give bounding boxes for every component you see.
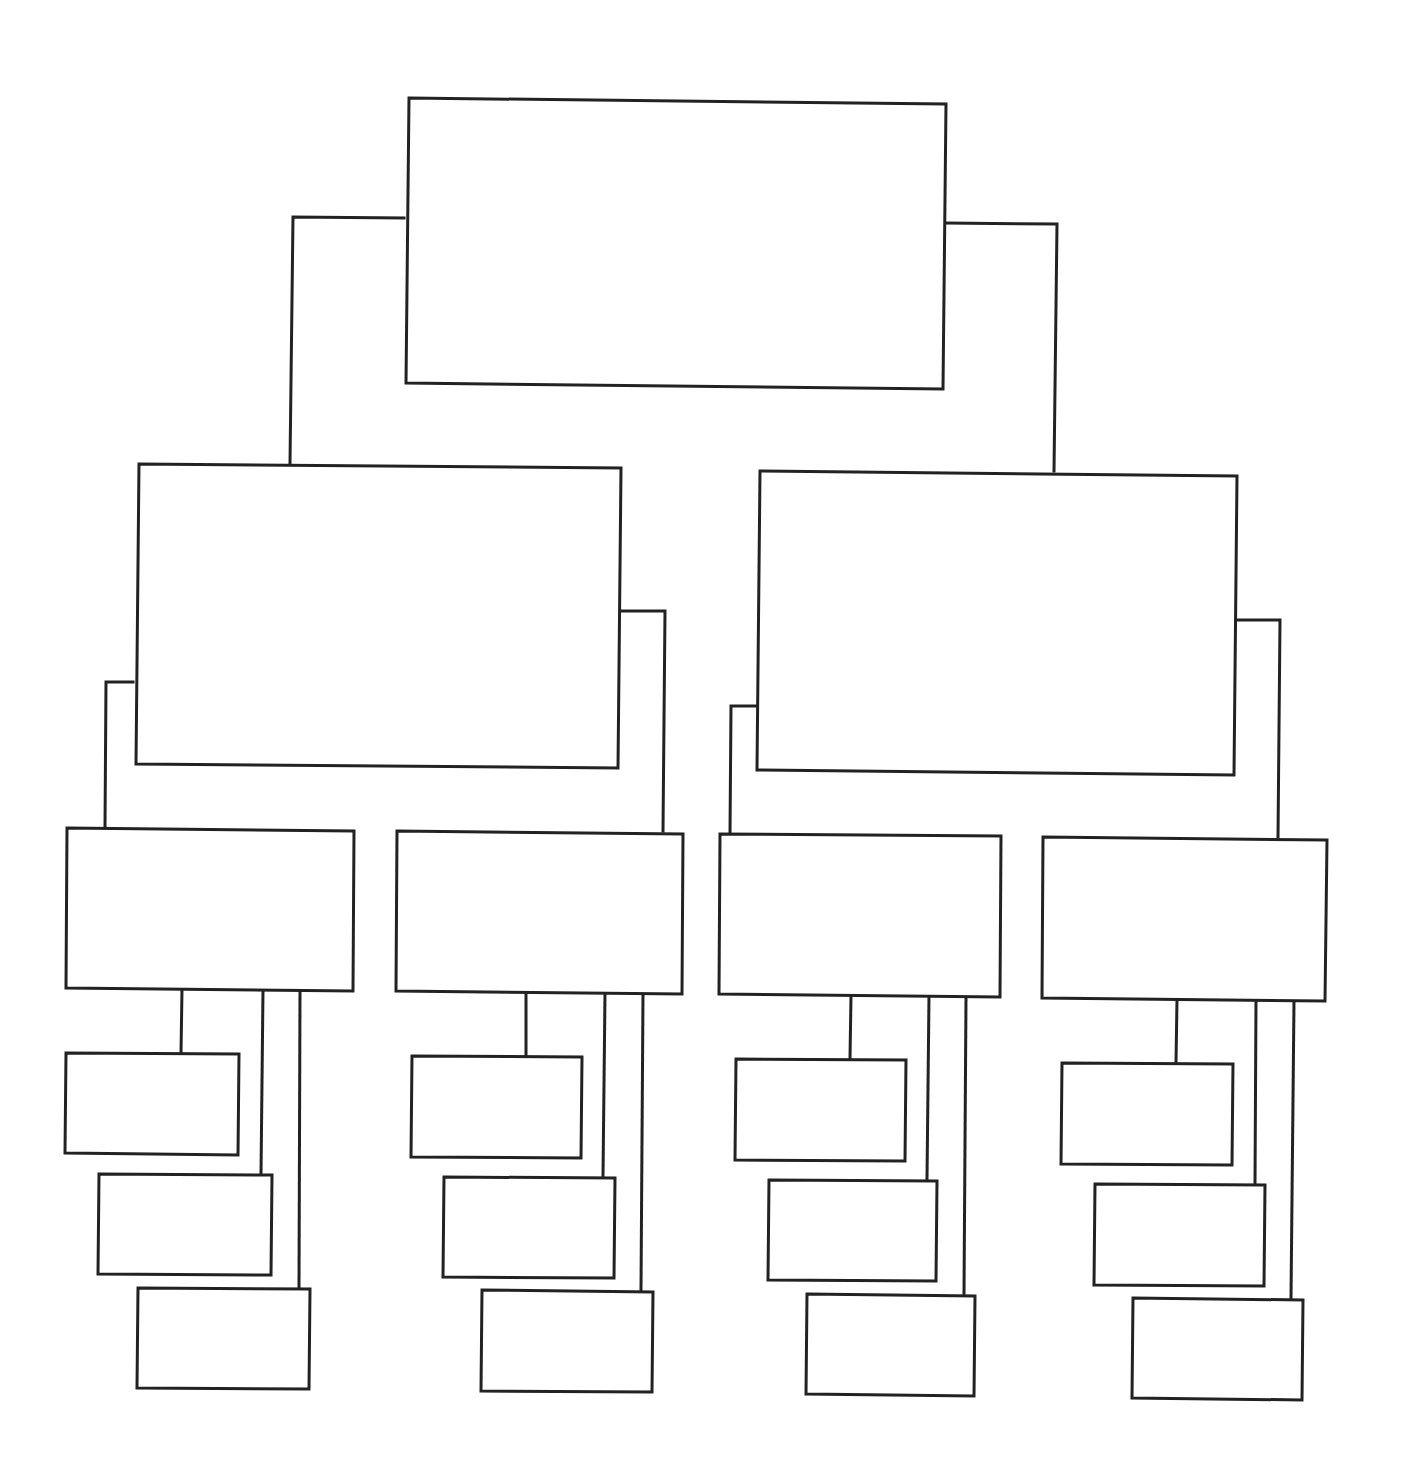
connector-line-l3-3-to-leaf-3-1 <box>850 996 851 1059</box>
node-outline <box>806 1294 975 1396</box>
connector-line-l3-1-to-leaf-1-2 <box>261 990 263 1174</box>
node-outline <box>137 1288 310 1389</box>
node-outline <box>1094 1184 1265 1286</box>
node-outline <box>136 464 621 768</box>
node-box-leaf-4-1 <box>1061 1063 1233 1165</box>
connector-line-l3-4-to-leaf-4-3 <box>1291 1001 1294 1298</box>
nodes-layer <box>65 98 1327 1400</box>
connector-line-l3-1-to-leaf-1-1 <box>181 989 182 1053</box>
node-box-leaf-3-1 <box>735 1059 906 1161</box>
node-box-leaf-4-2 <box>1094 1184 1265 1286</box>
connector-line-l3-2-to-leaf-2-3 <box>641 994 643 1290</box>
node-box-l3-3 <box>719 834 1001 997</box>
node-box-leaf-3-3 <box>806 1294 975 1396</box>
hierarchy-diagram <box>0 0 1401 1478</box>
node-outline <box>65 1053 239 1155</box>
node-box-leaf-2-2 <box>443 1177 615 1278</box>
node-outline <box>757 471 1237 775</box>
node-outline <box>1061 1063 1233 1165</box>
connector-line-l3-3-to-leaf-3-3 <box>964 997 966 1294</box>
node-box-l2-right <box>757 471 1237 775</box>
node-box-root <box>406 98 946 389</box>
node-box-leaf-3-2 <box>768 1180 937 1281</box>
connector-line-l3-3-to-leaf-3-2 <box>927 996 929 1180</box>
node-box-leaf-4-3 <box>1132 1298 1303 1400</box>
connector-line-l3-4-to-leaf-4-2 <box>1255 1000 1256 1184</box>
node-box-leaf-2-1 <box>411 1056 582 1158</box>
node-box-l3-4 <box>1042 837 1327 1001</box>
node-outline <box>1042 837 1327 1001</box>
node-outline <box>719 834 1001 997</box>
connector-line-l2-left-to-l3-1 <box>105 682 133 828</box>
node-box-l2-left <box>136 464 621 768</box>
node-outline <box>406 98 946 389</box>
connector-line-l2-right-to-l3-3 <box>730 706 756 834</box>
node-box-leaf-1-3 <box>137 1288 310 1389</box>
node-outline <box>735 1059 906 1161</box>
node-box-leaf-1-2 <box>98 1174 272 1275</box>
node-outline <box>411 1056 582 1158</box>
node-outline <box>66 828 354 991</box>
connector-line-l3-1-to-leaf-1-3 <box>299 991 300 1288</box>
node-outline <box>481 1290 653 1392</box>
connector-line-root-to-l2-right <box>945 223 1057 471</box>
connector-line-l3-2-to-leaf-2-2 <box>603 993 605 1177</box>
node-outline <box>396 831 683 994</box>
connector-line-l2-right-to-l3-4 <box>1234 620 1280 837</box>
node-outline <box>768 1180 937 1281</box>
node-box-leaf-1-1 <box>65 1053 239 1155</box>
connector-line-l2-left-to-l3-2 <box>617 611 665 831</box>
node-outline <box>1132 1298 1303 1400</box>
connector-line-l3-4-to-leaf-4-1 <box>1176 999 1177 1063</box>
connector-line-root-to-l2-left <box>290 217 404 464</box>
node-box-leaf-2-3 <box>481 1290 653 1392</box>
node-outline <box>98 1174 272 1275</box>
node-box-l3-1 <box>66 828 354 991</box>
node-box-l3-2 <box>396 831 683 994</box>
node-outline <box>443 1177 615 1278</box>
